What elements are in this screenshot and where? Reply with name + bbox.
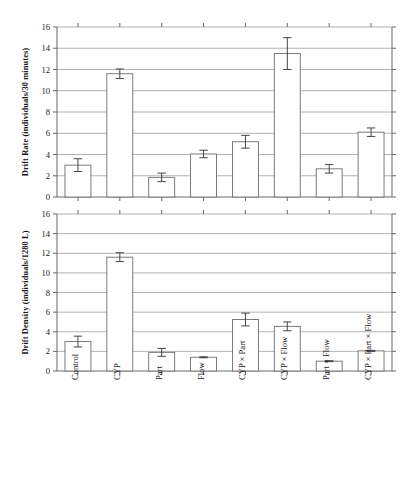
y-tick-label: 6 <box>46 307 51 317</box>
bar <box>274 54 300 197</box>
y-tick-label: 12 <box>41 65 50 75</box>
x-category-label: Flow <box>196 362 206 380</box>
panel-drift-rate: 0246810121416Drift Rate (individuals/30 … <box>21 22 396 202</box>
y-tick-label: 16 <box>41 22 50 32</box>
y-tick-label: 10 <box>41 86 50 96</box>
y-tick-label: 2 <box>46 346 50 356</box>
y-axis-title: Drift Density (individuals/1280 L) <box>21 230 30 354</box>
y-tick-label: 0 <box>46 366 50 376</box>
x-category-label: Part <box>154 366 164 380</box>
drift-figure: 0246810121416Drift Rate (individuals/30 … <box>0 0 406 479</box>
bar <box>232 142 258 197</box>
y-tick-label: 16 <box>41 209 50 219</box>
x-category-label: Part × Flow <box>321 339 331 380</box>
y-tick-label: 0 <box>46 192 50 202</box>
bar <box>107 74 133 197</box>
x-category-label: CYP × Part <box>237 340 247 380</box>
y-tick-label: 12 <box>41 248 50 258</box>
y-axis-title: Drift Rate (individuals/30 minutes) <box>21 48 30 177</box>
y-tick-label: 4 <box>46 327 51 337</box>
y-tick-label: 2 <box>46 171 50 181</box>
y-tick-label: 6 <box>46 128 51 138</box>
x-category-label: CYP × Part × Flow <box>363 313 373 380</box>
y-tick-label: 8 <box>46 288 50 298</box>
x-category-label: CYP × Flow <box>279 336 289 380</box>
x-category-label: Control <box>70 353 80 380</box>
y-tick-label: 14 <box>41 43 50 53</box>
bar <box>107 257 133 371</box>
y-tick-label: 8 <box>46 107 50 117</box>
y-tick-label: 4 <box>46 150 51 160</box>
y-tick-label: 14 <box>41 229 50 239</box>
y-tick-label: 10 <box>41 268 50 278</box>
bar <box>191 154 217 197</box>
x-category-label: CYP <box>112 363 122 380</box>
panel-drift-density: 0246810121416Drift Density (individuals/… <box>21 209 396 380</box>
bar <box>358 132 384 197</box>
